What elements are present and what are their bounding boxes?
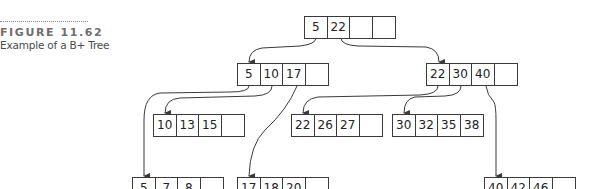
leaf-node: 5 7 8 xyxy=(132,177,224,189)
key-cell: 30 xyxy=(450,64,473,85)
key-cell xyxy=(373,17,396,38)
key-cell xyxy=(495,64,518,85)
key-cell: 15 xyxy=(199,115,222,136)
leaf-node: 17 18 20 xyxy=(237,177,329,189)
key-cell: 8 xyxy=(178,178,201,189)
internal-node-left: 5 10 17 xyxy=(237,63,329,86)
key-cell: 40 xyxy=(485,178,508,189)
key-cell: 46 xyxy=(530,178,553,189)
key-cell: 7 xyxy=(156,178,179,189)
key-cell: 5 xyxy=(305,17,328,38)
leaf-node: 30 32 35 38 xyxy=(392,114,484,137)
arrow-root-to-left xyxy=(249,38,316,62)
key-cell: 22 xyxy=(292,115,315,136)
key-cell: 22 xyxy=(328,17,351,38)
key-cell: 13 xyxy=(177,115,200,136)
arrow-left-to-leaf-10 xyxy=(165,86,272,113)
leaf-node: 40 42 46 xyxy=(484,177,576,189)
key-cell: 18 xyxy=(261,178,284,189)
key-cell: 5 xyxy=(133,178,156,189)
arrow-right-to-leaf-22 xyxy=(303,86,438,113)
key-cell xyxy=(360,115,383,136)
key-cell xyxy=(306,178,329,189)
root-node: 5 22 xyxy=(304,16,396,39)
arrow-right-to-leaf-30 xyxy=(404,86,461,113)
key-cell xyxy=(350,17,373,38)
leaf-node: 22 26 27 xyxy=(291,114,383,137)
tree-pointer-arrows xyxy=(0,0,599,189)
arrow-left-to-leaf-17 xyxy=(249,86,297,176)
key-cell: 5 xyxy=(238,64,261,85)
key-cell: 30 xyxy=(393,115,416,136)
key-cell xyxy=(222,115,245,136)
arrow-root-to-right xyxy=(341,38,439,62)
key-cell: 20 xyxy=(283,178,306,189)
internal-node-right: 22 30 40 xyxy=(426,63,518,86)
key-cell: 32 xyxy=(416,115,439,136)
key-cell: 10 xyxy=(261,64,284,85)
leaf-node: 10 13 15 xyxy=(153,114,245,137)
key-cell: 40 xyxy=(472,64,495,85)
key-cell: 10 xyxy=(154,115,177,136)
key-cell xyxy=(553,178,576,189)
key-cell: 35 xyxy=(438,115,461,136)
arrow-right-to-leaf-40 xyxy=(486,86,496,176)
key-cell xyxy=(201,178,224,189)
key-cell: 27 xyxy=(337,115,360,136)
key-cell: 22 xyxy=(427,64,450,85)
key-cell: 26 xyxy=(315,115,338,136)
key-cell: 38 xyxy=(461,115,484,136)
key-cell: 42 xyxy=(508,178,531,189)
key-cell: 17 xyxy=(283,64,306,85)
key-cell xyxy=(306,64,329,85)
key-cell: 17 xyxy=(238,178,261,189)
